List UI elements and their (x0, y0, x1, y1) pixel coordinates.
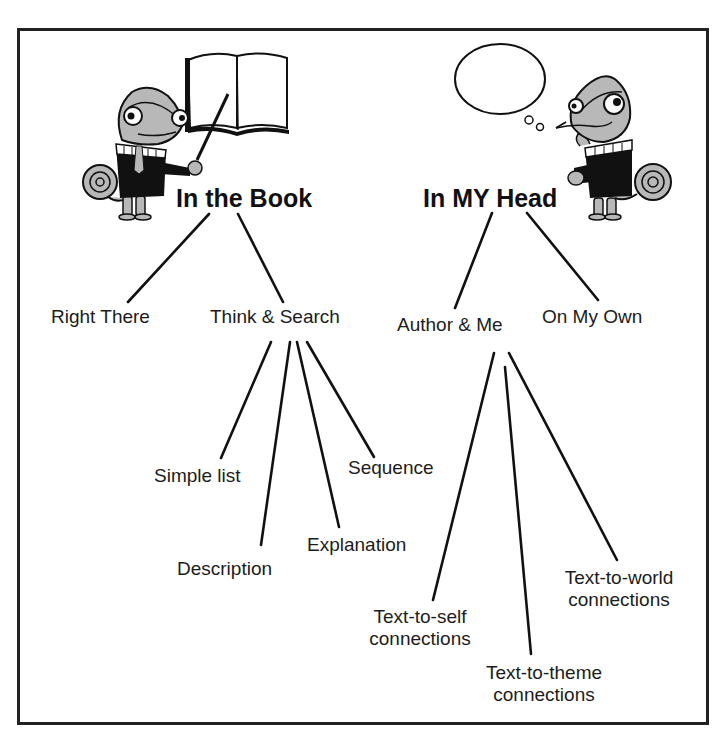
node-text-to-self: Text-to-self connections (362, 606, 478, 650)
node-think-and-search: Think & Search (210, 306, 340, 328)
connector-lines (128, 213, 617, 654)
heading-in-my-head: In MY Head (423, 184, 557, 212)
connector-sequence (307, 342, 374, 457)
node-simple-list: Simple list (154, 465, 241, 487)
heading-in-the-book: In the Book (176, 184, 312, 212)
node-sequence: Sequence (348, 457, 434, 479)
connector-explanation (297, 342, 339, 527)
node-text-to-theme-line2: connections (476, 684, 612, 706)
connector-description (261, 342, 290, 545)
thought-bubble-icon (455, 44, 545, 131)
connector-head-on-my-own (527, 213, 598, 300)
node-author-and-me: Author & Me (397, 314, 503, 336)
chameleon-thinking-icon (556, 76, 671, 220)
node-explanation: Explanation (307, 534, 406, 556)
node-text-to-self-line2: connections (362, 628, 478, 650)
node-text-to-theme: Text-to-theme connections (476, 662, 612, 706)
node-on-my-own: On My Own (542, 306, 642, 328)
connector-book-think-search (238, 214, 283, 302)
node-text-to-self-line1: Text-to-self (362, 606, 478, 628)
connector-book-right-there (128, 214, 209, 302)
node-right-there: Right There (51, 306, 150, 328)
connector-text-to-theme (505, 367, 531, 654)
connector-head-author-me (455, 213, 492, 308)
connector-text-to-world (509, 353, 617, 560)
connector-simple-list (221, 342, 271, 458)
node-text-to-world-line2: connections (556, 589, 682, 611)
connector-text-to-self (433, 353, 494, 600)
node-text-to-world: Text-to-world connections (556, 567, 682, 611)
node-description: Description (177, 558, 272, 580)
node-text-to-world-line1: Text-to-world (556, 567, 682, 589)
node-text-to-theme-line1: Text-to-theme (476, 662, 612, 684)
open-book-icon (185, 53, 289, 136)
